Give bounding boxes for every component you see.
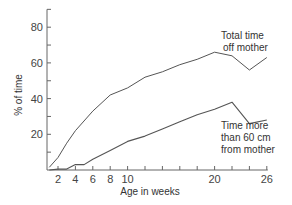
x-tick-label: 10 — [121, 173, 133, 185]
annotation-time-more-than-60cm: Time more than 60 cm from mother — [221, 120, 276, 155]
y-tick-label: 80 — [31, 21, 43, 33]
x-tick-label: 4 — [72, 173, 78, 185]
annotation-line: from mother — [221, 144, 276, 155]
x-tick-label: 26 — [261, 173, 273, 185]
line-chart: 204060802468102026 % of time Age in week… — [0, 0, 292, 205]
x-tick-label: 2 — [55, 173, 61, 185]
y-tick-label: 20 — [31, 128, 43, 140]
x-tick-label: 8 — [107, 173, 113, 185]
y-tick-label: 40 — [31, 93, 43, 105]
annotation-line: Time more — [221, 120, 269, 131]
x-tick-label: 6 — [90, 173, 96, 185]
y-tick-label: 60 — [31, 57, 43, 69]
y-axis-label: % of time — [13, 74, 24, 116]
annotation-line: Total time — [221, 30, 264, 41]
annotation-line: off mother — [223, 42, 269, 53]
annotation-total-time-off-mother: Total time off mother — [221, 30, 269, 53]
annotation-line: than 60 cm — [221, 132, 270, 143]
x-tick-label: 20 — [208, 173, 220, 185]
x-axis-label: Age in weeks — [120, 186, 179, 197]
